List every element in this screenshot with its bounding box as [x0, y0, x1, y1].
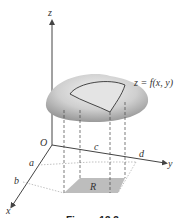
- surface-label: z = f(x, y): [133, 77, 174, 89]
- double-integral-diagram: z z = f(x, y) O c d y a b x R Figure 13.…: [0, 0, 186, 218]
- origin-label: O: [40, 137, 47, 148]
- x-axis-label: x: [5, 205, 11, 216]
- a-label: a: [29, 157, 34, 168]
- figure-caption: Figure 13.3: [66, 215, 119, 218]
- c-label: c: [94, 141, 99, 152]
- d-label: d: [139, 148, 145, 159]
- y-axis: [52, 145, 165, 163]
- z-axis-label: z: [47, 7, 52, 18]
- y-axis-label: y: [167, 158, 173, 169]
- region-label: R: [89, 181, 96, 192]
- b-label: b: [14, 175, 19, 186]
